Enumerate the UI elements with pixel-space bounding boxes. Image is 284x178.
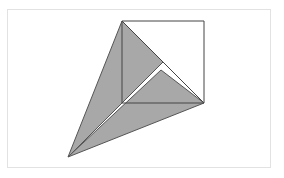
figure-root bbox=[0, 0, 284, 178]
geometry-canvas bbox=[0, 0, 284, 178]
